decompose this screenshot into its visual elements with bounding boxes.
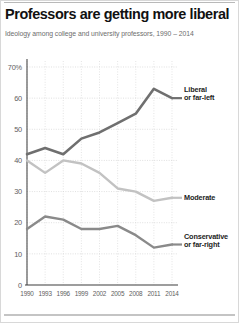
page-title: Professors are getting more liberal: [5, 5, 217, 22]
series-label-liberal-line2: or far-left: [184, 93, 215, 102]
series-line: [27, 216, 172, 247]
y-axis-tick: 0: [18, 281, 22, 290]
y-axis-tick: 40: [14, 156, 22, 165]
line-chart-svg: 70%6050403020100 19901993199619992002200…: [0, 55, 239, 310]
x-axis-tick: 2011: [147, 290, 161, 297]
series-label-moderate: Moderate: [184, 193, 215, 202]
y-axis-tick: 50: [14, 125, 22, 134]
y-axis-tick: 10: [14, 250, 22, 259]
x-axis-tick-labels: 199019931996199920022005200820112014: [20, 290, 179, 297]
series-labels-group: Liberal or far-left Moderate Conservativ…: [172, 85, 228, 248]
chart-figure: Professors are getting more liberal Ideo…: [0, 0, 239, 323]
x-axis-tick: 1990: [20, 290, 34, 297]
y-axis-tick: 70%: [8, 63, 23, 72]
top-divider: [4, 2, 235, 3]
y-axis-tick: 60: [14, 94, 22, 103]
x-axis-tick: 2002: [93, 290, 107, 297]
y-axis-tick: 30: [14, 187, 22, 196]
bottom-divider: [4, 314, 235, 316]
x-axis-tick: 1993: [38, 290, 52, 297]
x-axis-tick: 1996: [57, 290, 71, 297]
plot-area: 70%6050403020100 19901993199619992002200…: [0, 55, 239, 310]
chart-subtitle: Ideology among college and university pr…: [5, 29, 224, 38]
x-axis-tick: 2014: [165, 290, 179, 297]
gridlines-group: [27, 67, 178, 254]
x-axis-tick: 2005: [111, 290, 125, 297]
x-axis-tick: 2008: [129, 290, 143, 297]
series-label-conservative-line2: or far-right: [184, 240, 220, 249]
x-axis-tick: 1999: [75, 290, 89, 297]
y-axis-tick-labels: 70%6050403020100: [8, 63, 23, 290]
y-axis-tick: 20: [14, 218, 22, 227]
